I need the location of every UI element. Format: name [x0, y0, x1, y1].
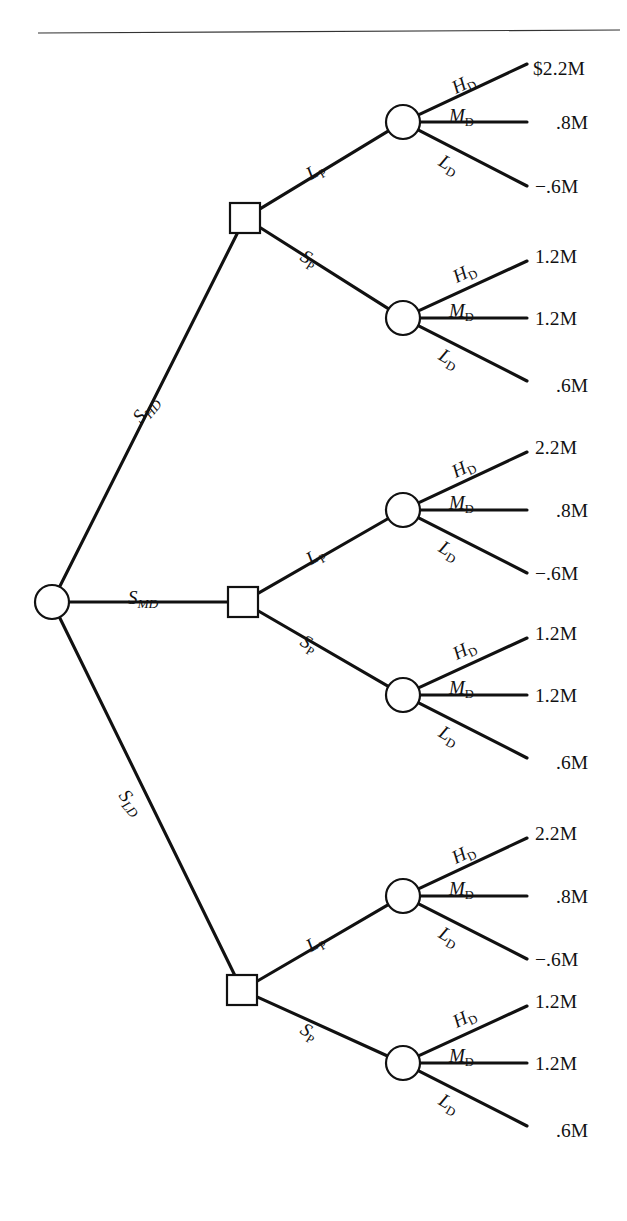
decision-node-group-low-demand[interactable] [227, 975, 257, 1005]
payoff-group-high-demand-LP-M: .8M [556, 112, 588, 134]
demand-branch-label-group-medium-demand-SP-M-base: M [449, 677, 465, 698]
payoff-group-medium-demand-SP-L: .6M [556, 752, 588, 774]
chance-node-group-low-demand-SP[interactable] [386, 1046, 420, 1080]
payoff-group-high-demand-LP-H: $2.2M [533, 58, 585, 80]
payoff-group-high-demand-SP-L: .6M [556, 375, 588, 397]
payoff-group-low-demand-SP-H: 1.2M [535, 991, 577, 1013]
demand-branch-group-medium-demand-SP-L [418, 703, 527, 758]
payoff-group-medium-demand-LP-M: .8M [556, 500, 588, 522]
demand-branch-group-low-demand-LP-L [418, 904, 527, 959]
demand-branch-label-group-medium-demand-SP-M-subscript: D [465, 687, 474, 701]
demand-branch-label-group-medium-demand-SP-M: MD [449, 677, 474, 699]
demand-branch-label-group-medium-demand-LP-M: MD [449, 492, 474, 514]
demand-branch-label-group-low-demand-LP-M: MD [449, 878, 474, 900]
demand-branch-label-group-low-demand-SP-M-subscript: D [465, 1055, 474, 1069]
price-branch-group-high-demand-SP [260, 227, 389, 308]
state-branch-label-S_MD: SMD [128, 587, 158, 609]
chance-node-group-low-demand-LP[interactable] [386, 879, 420, 913]
state-branch-S_LD [59, 617, 234, 975]
payoff-group-medium-demand-SP-M: 1.2M [535, 685, 577, 707]
decision-tree-figure: SHDSMDSLDLPHDMDLDSPHDMDLDLPHDMDLDSPHDMDL… [0, 0, 627, 1221]
chance-node-group-high-demand-LP[interactable] [386, 105, 420, 139]
demand-branch-label-group-medium-demand-LP-M-subscript: D [465, 502, 474, 516]
demand-branch-label-group-high-demand-SP-M: MD [449, 300, 474, 322]
demand-branch-label-group-high-demand-LP-M: MD [449, 105, 474, 127]
demand-branch-group-high-demand-LP-L [418, 130, 527, 186]
payoff-group-medium-demand-LP-L: −.6M [535, 563, 578, 585]
payoff-group-low-demand-LP-M: .8M [556, 886, 588, 908]
decision-node-group-medium-demand[interactable] [228, 587, 258, 617]
demand-branch-label-group-high-demand-LP-M-base: M [449, 105, 465, 126]
top-rule [38, 30, 620, 33]
demand-branch-label-group-high-demand-SP-M-subscript: D [465, 310, 474, 324]
payoff-group-low-demand-LP-L: −.6M [535, 949, 578, 971]
payoff-group-high-demand-SP-H: 1.2M [535, 246, 577, 268]
demand-branch-label-group-low-demand-LP-M-subscript: D [465, 888, 474, 902]
payoff-group-high-demand-SP-M: 1.2M [535, 308, 577, 330]
state-branch-label-S_MD-base: S [128, 587, 138, 608]
payoff-group-low-demand-LP-H: 2.2M [535, 823, 577, 845]
price-branch-group-low-demand-SP [257, 997, 388, 1056]
payoff-group-low-demand-SP-M: 1.2M [535, 1053, 577, 1075]
demand-branch-group-low-demand-SP-L [418, 1071, 527, 1126]
demand-branch-label-group-medium-demand-LP-M-base: M [449, 492, 465, 513]
payoff-group-high-demand-LP-L: −.6M [535, 176, 578, 198]
demand-branch-label-group-low-demand-SP-M-base: M [449, 1045, 465, 1066]
root-chance-node[interactable] [35, 585, 69, 619]
demand-branch-label-group-low-demand-SP-M: MD [449, 1045, 474, 1067]
chance-node-group-medium-demand-SP[interactable] [386, 678, 420, 712]
chance-node-group-high-demand-SP[interactable] [386, 301, 420, 335]
demand-branch-group-medium-demand-LP-L [418, 518, 527, 573]
decision-node-group-high-demand[interactable] [230, 203, 260, 233]
price-branch-group-medium-demand-SP [258, 611, 388, 687]
demand-branch-label-group-low-demand-LP-M-base: M [449, 878, 465, 899]
payoff-group-low-demand-SP-L: .6M [556, 1120, 588, 1142]
demand-branch-label-group-high-demand-LP-M-subscript: D [465, 115, 474, 129]
demand-branch-label-group-high-demand-SP-M-base: M [449, 300, 465, 321]
demand-branch-group-high-demand-SP-L [418, 326, 527, 381]
chance-node-group-medium-demand-LP[interactable] [386, 493, 420, 527]
payoff-group-medium-demand-LP-H: 2.2M [535, 437, 577, 459]
state-branch-label-S_MD-subscript: MD [138, 596, 159, 611]
payoff-group-medium-demand-SP-H: 1.2M [535, 623, 577, 645]
top-rule-layer [38, 30, 620, 33]
